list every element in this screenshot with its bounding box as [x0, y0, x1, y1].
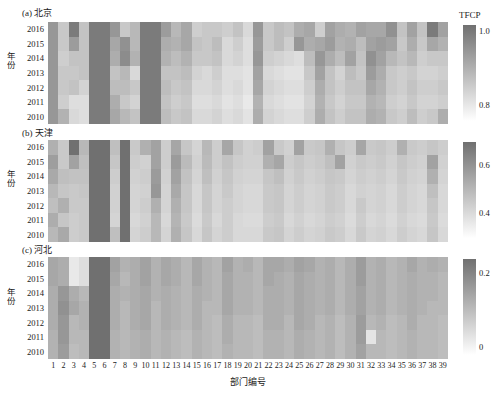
heatmap-cell [263, 315, 273, 330]
heatmap-cell [58, 286, 68, 301]
heatmap-cell [89, 184, 99, 199]
heatmap-cell [243, 37, 253, 52]
heatmap-cell [58, 95, 68, 110]
heatmap-cell [304, 227, 314, 242]
colorbar-tick-0.8: 0.8 [479, 101, 490, 110]
heatmap-cell [397, 109, 407, 124]
heatmap-cell [140, 66, 150, 81]
heatmap-cell [192, 315, 202, 330]
heatmap-cell [407, 22, 417, 37]
heatmap-cell [294, 301, 304, 316]
heatmap-cell [386, 330, 396, 345]
heatmap-cell [253, 66, 263, 81]
heatmap-cell [140, 109, 150, 124]
heatmap-cell [48, 155, 58, 170]
heatmap-cell [192, 198, 202, 213]
heatmap-cell [335, 227, 345, 242]
heatmap-cell [120, 286, 130, 301]
heatmap-cell [243, 155, 253, 170]
heatmap-cell [151, 301, 161, 316]
heatmap-cell [140, 286, 150, 301]
heatmap-cell [243, 184, 253, 199]
heatmap-cell [335, 95, 345, 110]
heatmap-cell [99, 80, 109, 95]
heatmap-cell [417, 198, 427, 213]
heatmap-cell [222, 213, 232, 228]
heatmap-cell [120, 272, 130, 287]
heatmap-cell [151, 257, 161, 272]
heatmap-cell [427, 227, 437, 242]
heatmap-cell [294, 213, 304, 228]
colorbar-tick-0.4: 0.4 [479, 209, 490, 218]
heatmap-cell [263, 22, 273, 37]
heatmap-cell [253, 257, 263, 272]
heatmap-cell [69, 37, 79, 52]
panel-b-heatmap [48, 140, 448, 242]
colorbar-tick-0.2: 0.2 [479, 269, 490, 278]
heatmap-cell [140, 51, 150, 66]
heatmap-cell [284, 257, 294, 272]
heatmap-cell [79, 315, 89, 330]
heatmap-cell [222, 155, 232, 170]
heatmap-cell [274, 315, 284, 330]
heatmap-cell [345, 315, 355, 330]
heatmap-cell [99, 272, 109, 287]
heatmap-cell [397, 66, 407, 81]
heatmap-cell [335, 37, 345, 52]
heatmap-cell [263, 286, 273, 301]
heatmap-cell [294, 169, 304, 184]
heatmap-cell [366, 169, 376, 184]
heatmap-cell [438, 169, 448, 184]
heatmap-cell [386, 155, 396, 170]
heatmap-cell [356, 330, 366, 345]
heatmap-cell [130, 80, 140, 95]
heatmap-cell [427, 37, 437, 52]
heatmap-cell [69, 344, 79, 359]
heatmap-cell [48, 315, 58, 330]
panel-c-heatmap [48, 257, 448, 359]
heatmap-cell [99, 330, 109, 345]
heatmap-cell [325, 227, 335, 242]
heatmap-cell [438, 140, 448, 155]
heatmap-cell [335, 184, 345, 199]
heatmap-cell [274, 80, 284, 95]
heatmap-cell [274, 155, 284, 170]
heatmap-cell [253, 227, 263, 242]
heatmap-cell [99, 184, 109, 199]
heatmap-cell [294, 198, 304, 213]
heatmap-cell [181, 257, 191, 272]
heatmap-cell [315, 184, 325, 199]
heatmap-cell [427, 213, 437, 228]
heatmap-cell [356, 198, 366, 213]
heatmap-cell [263, 155, 273, 170]
heatmap-cell [58, 37, 68, 52]
heatmap-cell [140, 22, 150, 37]
heatmap-cell [274, 169, 284, 184]
heatmap-cell [427, 22, 437, 37]
heatmap-cell [407, 95, 417, 110]
heatmap-cell [427, 330, 437, 345]
heatmap-cell [79, 227, 89, 242]
heatmap-cell [181, 109, 191, 124]
heatmap-cell [48, 286, 58, 301]
heatmap-cell [110, 272, 120, 287]
heatmap-cell [233, 301, 243, 316]
heatmap-cell [407, 227, 417, 242]
heatmap-cell [110, 198, 120, 213]
heatmap-cell [274, 344, 284, 359]
heatmap-cell [202, 227, 212, 242]
heatmap-cell [315, 66, 325, 81]
heatmap-cell [325, 198, 335, 213]
panel-c-title: (c) 河北 [22, 245, 52, 255]
heatmap-cell [99, 257, 109, 272]
heatmap-cell [407, 272, 417, 287]
heatmap-cell [181, 37, 191, 52]
heatmap-cell [294, 184, 304, 199]
heatmap-cell [386, 301, 396, 316]
heatmap-cell [274, 184, 284, 199]
heatmap-cell [110, 140, 120, 155]
heatmap-cell [212, 155, 222, 170]
heatmap-cell [335, 301, 345, 316]
heatmap-cell [356, 257, 366, 272]
heatmap-cell [438, 37, 448, 52]
